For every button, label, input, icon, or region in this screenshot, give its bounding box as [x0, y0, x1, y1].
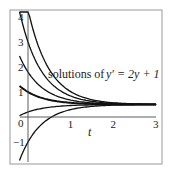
solution-curve [20, 86, 157, 105]
y-tick-label: 3 [18, 36, 24, 48]
y-tick-label: 0 [18, 117, 24, 129]
plot-frame [10, 10, 162, 164]
y-tick-label: 2 [18, 61, 24, 73]
chart-title-equation: y′ = 2y + 1 [105, 67, 159, 81]
x-axis-label: t [88, 125, 92, 139]
solution-curve [20, 12, 157, 104]
x-tick-label: 1 [68, 118, 74, 130]
y-tick-label: 4 [18, 11, 24, 23]
y-tick-label: −1 [13, 136, 25, 148]
chart: 12343210−1 solutions of y′ = 2y + 1 t [0, 0, 170, 174]
chart-title-prefix: solutions of [48, 67, 104, 81]
x-tick-label: 3 [153, 118, 159, 130]
solution-curve [20, 12, 157, 104]
y-tick-label: 1 [18, 86, 24, 98]
x-tick-label: 2 [110, 118, 116, 130]
